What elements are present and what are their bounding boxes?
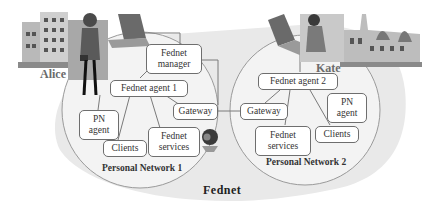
personal-network-2-label: Personal Network 2 xyxy=(266,157,346,167)
fednet-agent-2-node[interactable]: Fednet agent 2 xyxy=(258,73,338,90)
fednet-services-1-node[interactable]: Fednet services xyxy=(148,127,200,157)
gateway-2-node[interactable]: Gateway xyxy=(240,103,288,120)
owner-label-alice: Alice xyxy=(40,67,66,82)
fednet-services-2-node[interactable]: Fednet services xyxy=(255,126,311,156)
personal-network-1-label: Personal Network 1 xyxy=(102,163,182,173)
clients-2-node[interactable]: Clients xyxy=(315,126,359,143)
woman-icon xyxy=(300,14,344,62)
fednet-agent-1-node[interactable]: Fednet agent 1 xyxy=(110,80,188,97)
fednet-diagram: Alice Kate Fednet manager Fednet agent 1… xyxy=(0,0,434,214)
gateway-1-node[interactable]: Gateway xyxy=(173,103,218,120)
laptop-icon xyxy=(108,14,150,48)
clients-1-node[interactable]: Clients xyxy=(103,140,147,157)
webcam-icon xyxy=(202,129,218,152)
pn-agent-1-node[interactable]: PN agent xyxy=(79,110,119,140)
fednet-manager-node[interactable]: Fednet manager xyxy=(146,44,202,74)
castle-icon xyxy=(340,14,422,67)
fednet-label: Fednet xyxy=(203,183,241,198)
building-icon xyxy=(18,12,74,68)
pn-agent-2-node[interactable]: PN agent xyxy=(327,93,367,123)
